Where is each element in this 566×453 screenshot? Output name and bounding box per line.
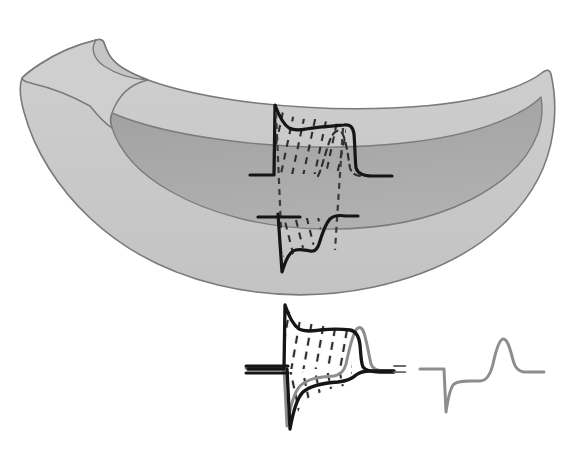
- cardiac-wedge-ecg-figure: [0, 0, 566, 453]
- figure-root: =: [0, 0, 566, 453]
- ecg-trace: [420, 339, 544, 412]
- composite-action-potentials: [246, 298, 394, 437]
- equals-sign: =: [392, 355, 407, 381]
- ecg-waveform: [420, 339, 544, 412]
